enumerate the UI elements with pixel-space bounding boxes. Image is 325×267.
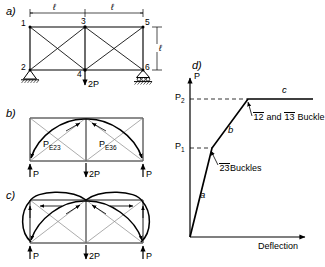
panel-tag-b: b) (6, 108, 16, 119)
dimension-label-span-left: ℓ (53, 3, 56, 12)
chart-guide-lines (190, 99, 248, 148)
reaction-label-p-left-c: P (33, 252, 39, 261)
buckled-diagonals-c (31, 201, 142, 240)
buckling-load-label-36: PE36 (99, 140, 117, 151)
node-label-3: 3 (81, 17, 86, 26)
y-tick-label-p1: P1 (175, 142, 185, 153)
curve-segment-label-b: b (228, 125, 233, 135)
reaction-label-p-left-b: P (33, 170, 39, 179)
truss-members (30, 27, 143, 70)
reaction-arrows-b (30, 163, 143, 177)
dimension-label-span-right: ℓ (111, 3, 114, 12)
reaction-label-p-right-b: P (146, 170, 152, 179)
truss-diagonals (30, 27, 143, 70)
load-label-2p-a: 2P (88, 80, 99, 89)
roller-support (134, 70, 152, 85)
annotation-23-buckles: 23Buckles (219, 163, 262, 173)
panel-tag-c: c) (6, 190, 15, 201)
load-label-2p-b: 2P (89, 170, 100, 179)
node-label-1: 1 (21, 19, 26, 28)
node-label-2: 2 (21, 63, 26, 72)
node-label-4: 4 (77, 70, 82, 79)
annotation-12-13-buckle: 12 and 13 Buckle (253, 112, 325, 122)
curve-segment-label-c: c (282, 85, 287, 95)
panel-d-chart (190, 78, 313, 237)
dimension-line-span (30, 9, 143, 17)
x-axis-label: Deflection (258, 242, 298, 251)
load-label-2p-c: 2P (89, 252, 100, 261)
curve-segment-label-a: a (200, 190, 205, 200)
node-label-5: 5 (145, 18, 150, 27)
truss-joints (29, 25, 145, 71)
panel-a-truss (21, 9, 162, 85)
panel-tag-d: d) (192, 60, 202, 71)
truss-diagonals-c (30, 200, 143, 243)
panel-c-buckling (23, 192, 150, 259)
reaction-arrows-c (30, 245, 143, 259)
dimension-label-height: ℓ (159, 44, 162, 53)
node-label-6: 6 (145, 63, 150, 72)
buckling-load-label-23: PE23 (43, 140, 61, 151)
reaction-label-p-right-c: P (146, 252, 152, 261)
y-tick-label-p2: P2 (175, 93, 185, 104)
panel-tag-a: a) (6, 6, 16, 17)
y-axis-label: P (194, 72, 200, 81)
chart-axes (190, 78, 305, 237)
truss-outline-c (30, 200, 143, 243)
